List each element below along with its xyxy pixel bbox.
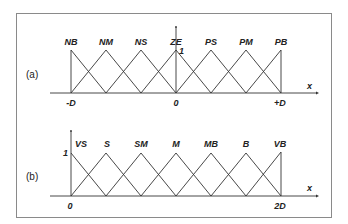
panel-label: (a): [26, 69, 38, 80]
x-axis-label: x: [306, 81, 313, 91]
x-tick-label: -D: [66, 98, 76, 108]
panel-label: (b): [26, 171, 38, 182]
y-tick-label: 1: [179, 46, 184, 56]
x-axis-label: x: [306, 183, 313, 193]
set-label: VS: [75, 139, 87, 149]
set-label: PM: [239, 37, 253, 47]
set-label: PB: [275, 37, 288, 47]
set-label: S: [104, 139, 110, 149]
x-tick-label: 0: [67, 201, 72, 211]
set-label: SM: [134, 139, 148, 149]
set-label: B: [243, 139, 250, 149]
set-label: MB: [204, 139, 218, 149]
set-label: PS: [205, 37, 217, 47]
x-tick-label: 0: [173, 98, 178, 108]
y-tick-label: 1: [63, 148, 68, 158]
membership-diagram: NB NM NS ZE PS PM PB 1 -D 0 +D x (a) VS …: [0, 0, 348, 224]
set-label: NM: [99, 37, 113, 47]
set-label: M: [172, 139, 180, 149]
set-label: NS: [135, 37, 148, 47]
set-label: VB: [274, 139, 287, 149]
x-tick-label: +D: [274, 98, 286, 108]
x-tick-label: 2D: [273, 201, 286, 211]
set-label: NB: [65, 37, 78, 47]
